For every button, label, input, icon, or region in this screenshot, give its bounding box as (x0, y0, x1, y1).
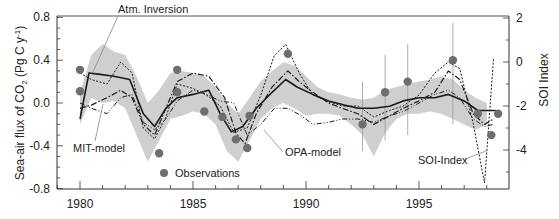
observation-point (243, 144, 251, 152)
y-tick-right-label: -2 (516, 99, 527, 113)
observation-point (404, 77, 412, 85)
observation-marker-icon (160, 169, 168, 177)
observation-point (487, 131, 495, 139)
observation-point (232, 135, 240, 143)
observation-point (173, 66, 181, 74)
annotation-opa-model: OPA-model (264, 130, 341, 158)
observation-point (381, 88, 389, 96)
y-tick-label: 0.0 (33, 96, 50, 110)
observation-point (173, 88, 181, 96)
y-tick-label: 0.8 (33, 10, 50, 24)
y-tick-right-label: -4 (516, 143, 527, 157)
observation-point (245, 112, 253, 120)
observation-point (218, 113, 226, 121)
y-axis-right-label: SOI Index (537, 53, 551, 106)
x-ticks: 1980198519901995 (57, 181, 486, 211)
uncertainty-band (80, 44, 487, 162)
y-axis-label: Sea-air flux of CO2 (Pg C y-1) (13, 26, 29, 180)
legend-observations: Observations (160, 167, 240, 179)
svg-text:OPA-model: OPA-model (285, 146, 341, 158)
y-tick-label: -0.4 (29, 139, 50, 153)
x-tick-label: 1985 (180, 197, 207, 211)
y-ticks-right: 20-2-4 (503, 11, 527, 172)
annotation-soi-index: SOI-Index (418, 151, 486, 166)
x-tick-label: 1995 (406, 197, 433, 211)
observation-point (200, 107, 208, 115)
y-tick-right-label: 2 (516, 11, 523, 25)
observation-point (284, 50, 292, 58)
y-tick-right-label: 0 (516, 55, 523, 69)
co2-flux-chart: 1980198519901995 0.80.40.0-0.4-0.8 20-2-… (0, 0, 559, 219)
svg-text:MIT-model: MIT-model (73, 142, 125, 154)
y-ticks: 0.80.40.0-0.4-0.8 (29, 10, 63, 195)
x-tick-label: 1980 (67, 197, 94, 211)
observation-point (474, 110, 482, 118)
observation-point (76, 87, 84, 95)
y-tick-label: 0.4 (33, 53, 50, 67)
observation-point (449, 56, 457, 64)
svg-text:Atm. Inversion: Atm. Inversion (118, 3, 188, 15)
svg-text:SOI-Index: SOI-Index (418, 154, 468, 166)
observation-point (155, 149, 163, 157)
y-tick-label: -0.8 (29, 182, 50, 196)
observation-point (358, 120, 366, 128)
x-tick-label: 1990 (293, 197, 320, 211)
observation-point (76, 66, 84, 74)
observation-point (494, 110, 502, 118)
svg-text:Observations: Observations (175, 167, 240, 179)
